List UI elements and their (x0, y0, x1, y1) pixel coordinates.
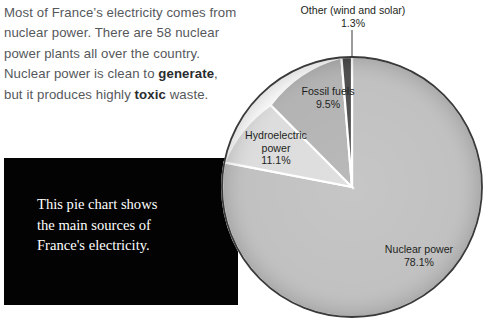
pie-label-nuclear: Nuclear power 78.1% (369, 243, 469, 268)
pie-label-other: Other (wind and solar) 1.3% (289, 4, 417, 29)
pie-label-hydroelectric: Hydroelectric power 11.1% (233, 129, 319, 167)
pie-label-other-pct: 1.3% (289, 17, 417, 30)
pie-label-hydro-name-2: power (233, 142, 319, 155)
pie-label-other-name: Other (wind and solar) (301, 4, 406, 16)
pie-label-fossil-name: Fossil fuels (302, 85, 355, 97)
pie-label-hydro-pct: 11.1% (233, 154, 319, 167)
pie-label-fossil-fuels: Fossil fuels 9.5% (286, 85, 370, 110)
pie-chart: Other (wind and solar) 1.3% Fossil fuels… (0, 0, 493, 322)
pie-label-nuclear-pct: 78.1% (369, 256, 469, 269)
pie-label-hydro-name-1: Hydroelectric (245, 129, 307, 141)
pie-label-fossil-pct: 9.5% (286, 98, 370, 111)
pie-chart-infographic: Most of France’s electricity comes from … (0, 0, 493, 322)
pie-label-nuclear-name: Nuclear power (385, 243, 453, 255)
